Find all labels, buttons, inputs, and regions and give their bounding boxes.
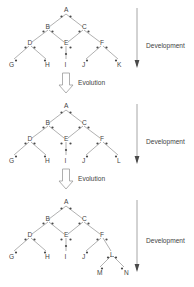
node-label-j: J <box>82 158 85 165</box>
node-label-h: H <box>45 158 50 165</box>
diagram-panel-2: A B C D E F G H I J L Development Evolut… <box>0 96 194 192</box>
node-label-d: D <box>28 40 33 47</box>
node-label-f: F <box>100 232 104 239</box>
node-label-b: B <box>46 216 50 223</box>
diagram-panel-1: A B C D E F G H I J K Development Evolut… <box>0 0 194 97</box>
node-label-d: D <box>28 136 33 143</box>
node-label-i: I <box>65 254 67 261</box>
node-label-m: M <box>97 270 103 277</box>
development-label-1: Development <box>146 43 185 50</box>
node-label-n: N <box>124 270 129 277</box>
node-label-h: H <box>45 62 50 69</box>
node-label-a: A <box>64 7 68 14</box>
node-label-l: L <box>117 158 121 165</box>
node-label-e: E <box>64 136 68 143</box>
node-label-g: G <box>9 62 14 69</box>
node-label-l: L <box>110 252 114 259</box>
node-label-d: D <box>28 232 33 239</box>
development-label-2: Development <box>146 139 185 146</box>
node-label-a: A <box>64 103 68 110</box>
node-label-i: I <box>65 158 67 165</box>
development-label-3: Development <box>146 238 185 245</box>
tree-graph-3 <box>0 192 132 287</box>
node-label-f: F <box>100 136 104 143</box>
node-label-c: C <box>82 216 87 223</box>
node-label-k: K <box>117 62 121 69</box>
tree-edges-2 <box>14 110 118 155</box>
node-label-f: F <box>100 40 104 47</box>
node-label-e: E <box>64 232 68 239</box>
diagram-panel-3: A B C D E F G H I J L M N Development <box>0 192 194 287</box>
node-label-c: C <box>82 120 87 127</box>
node-label-g: G <box>9 254 14 261</box>
node-label-h: H <box>45 254 50 261</box>
node-label-g: G <box>9 158 14 165</box>
evolution-label-2: Evolution <box>78 176 105 183</box>
node-label-e: E <box>64 40 68 47</box>
node-label-j: J <box>82 62 85 69</box>
node-label-b: B <box>46 24 50 31</box>
node-label-c: C <box>82 24 87 31</box>
node-label-b: B <box>46 120 50 127</box>
evolution-label-1: Evolution <box>78 80 105 87</box>
node-label-j: J <box>82 254 85 261</box>
node-label-i: I <box>65 62 67 69</box>
node-label-a: A <box>64 199 68 206</box>
tree-edges-1 <box>14 14 118 59</box>
